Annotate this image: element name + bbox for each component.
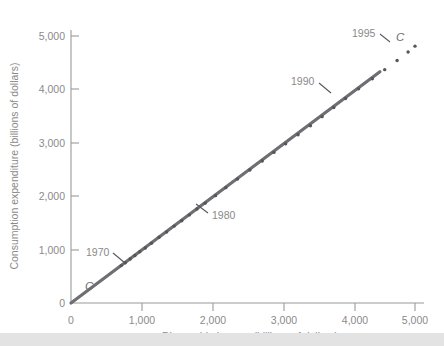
x-tick-label-1000: 1,000 xyxy=(129,314,155,326)
y-tick-label-5000: 5,000 xyxy=(39,30,65,42)
y-tick-label-1000: 1,000 xyxy=(39,244,65,256)
y-tick-label-3000: 3,000 xyxy=(39,137,65,149)
y-axis-title: Consumption expenditure (billions of dol… xyxy=(8,62,20,269)
x-tick-label-4000: 4,000 xyxy=(342,314,368,326)
chart-figure: 5,000 4,000 3,000 2,000 1,000 0 Consumpt… xyxy=(0,0,444,346)
curve-label-end: C xyxy=(396,31,405,43)
data-point xyxy=(133,254,136,257)
data-point xyxy=(214,194,217,197)
annotation-1990-label: 1990 xyxy=(291,75,315,87)
data-point xyxy=(203,201,206,204)
x-tick-label-3000: 3,000 xyxy=(271,314,297,326)
data-point xyxy=(357,87,360,90)
data-point xyxy=(173,224,176,227)
annotation-1980-label: 1980 xyxy=(212,209,236,221)
data-point xyxy=(248,168,251,171)
data-point xyxy=(128,257,131,260)
data-point xyxy=(236,177,239,180)
chart-background xyxy=(0,0,444,333)
curve-label-origin: C xyxy=(85,280,94,292)
data-point xyxy=(224,186,227,189)
data-point xyxy=(188,213,191,216)
x-tick-label-5000: 5,000 xyxy=(402,314,428,326)
data-point xyxy=(383,68,386,71)
data-point xyxy=(138,250,141,253)
data-point xyxy=(320,115,323,118)
data-point xyxy=(144,246,147,249)
data-point xyxy=(309,124,312,127)
x-tick-label-0: 0 xyxy=(68,314,74,326)
annotation-1995-label: 1995 xyxy=(352,27,376,39)
y-tick-label-4000: 4,000 xyxy=(39,83,65,95)
data-point xyxy=(296,133,299,136)
data-point xyxy=(413,44,416,47)
data-point xyxy=(272,151,275,154)
data-point xyxy=(150,241,153,244)
page-bottom-band xyxy=(0,333,444,346)
data-point xyxy=(406,50,409,53)
data-point xyxy=(395,59,398,62)
data-point xyxy=(180,219,183,222)
y-tick-label-0: 0 xyxy=(59,297,65,309)
data-point xyxy=(120,264,123,267)
data-point xyxy=(344,97,347,100)
data-point xyxy=(157,236,160,239)
annotation-1970-label: 1970 xyxy=(86,246,110,258)
data-point xyxy=(284,142,287,145)
y-tick-label-2000: 2,000 xyxy=(39,190,65,202)
consumption-function-chart: 5,000 4,000 3,000 2,000 1,000 0 Consumpt… xyxy=(0,0,444,346)
x-tick-label-2000: 2,000 xyxy=(200,314,226,326)
data-point xyxy=(332,106,335,109)
data-point xyxy=(195,207,198,210)
data-point xyxy=(261,159,264,162)
data-point xyxy=(165,230,168,233)
data-point xyxy=(371,77,374,80)
